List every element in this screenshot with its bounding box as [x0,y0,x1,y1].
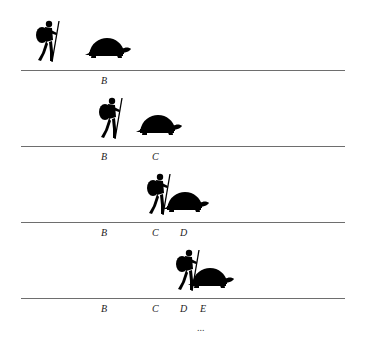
ground-line [21,222,345,223]
point-label-d: D [180,227,187,238]
point-label-e: E [200,303,206,314]
point-label-c: C [152,227,159,238]
point-label-b: B [101,151,107,162]
ground-line [21,70,345,71]
point-label-b: B [101,75,107,86]
point-label-c: C [152,151,159,162]
achilles-icon [96,97,124,139]
tortoise-icon [136,114,182,136]
tortoise-icon [85,37,131,59]
point-label-b: B [101,227,107,238]
achilles-icon [144,173,172,215]
ground-line [21,146,345,147]
achilles-icon [173,249,201,291]
ellipsis: ... [197,322,205,333]
ground-line [21,298,345,299]
point-label-d: D [180,303,187,314]
point-label-c: C [152,303,159,314]
point-label-b: B [101,303,107,314]
achilles-icon [33,20,61,62]
